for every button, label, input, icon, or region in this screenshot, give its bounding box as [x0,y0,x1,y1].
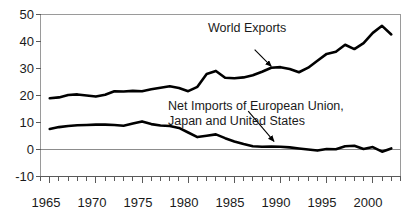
y-tick-label-minus10: -10 [2,170,34,183]
y-tick-label-30: 30 [2,62,34,75]
y-tick-label-0: 0 [2,143,34,156]
series-world-exports [50,26,392,98]
net-imports-annotation-line1: Net Imports of European Union, [168,99,344,115]
x-tick-label-2000: 2000 [345,196,391,209]
net-imports-annotation-line2: Japan and United States [168,114,305,130]
world-exports-arrow [255,50,272,67]
y-tick-label-40: 40 [2,35,34,48]
y-tick-label-10: 10 [2,116,34,129]
x-axis [41,177,401,183]
x-tick-label-1990: 1990 [253,196,299,209]
x-tick-label-1965: 1965 [23,196,69,209]
x-tick-label-1995: 1995 [299,196,345,209]
chart-figure: 50 40 30 20 10 0 -10 1965 1970 1975 1980… [0,0,414,220]
x-tick-label-1985: 1985 [207,196,253,209]
y-tick-label-50: 50 [2,8,34,21]
x-tick-label-1980: 1980 [161,196,207,209]
x-tick-label-1975: 1975 [115,196,161,209]
y-tick-label-20: 20 [2,89,34,102]
y-axis [36,15,41,177]
world-exports-annotation: World Exports [208,21,286,37]
x-tick-label-1970: 1970 [69,196,115,209]
